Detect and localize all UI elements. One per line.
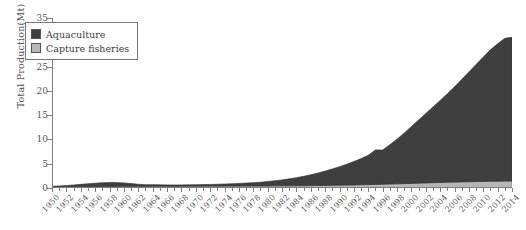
x-axis-tick [340,188,341,192]
x-axis-tick [469,188,470,192]
x-axis-tick [311,188,312,192]
x-axis-tick [117,188,118,191]
x-axis-tick [52,188,53,192]
x-axis-tick [332,188,333,191]
x-axis-tick [217,188,218,191]
x-axis-tick [411,188,412,192]
x-axis-tick [239,188,240,192]
x-axis-tick [81,188,82,192]
x-axis-tick [210,188,211,192]
x-axis-tick [167,188,168,192]
x-axis-tick [390,188,391,191]
x-axis-tick [145,188,146,191]
legend-label-aquaculture: Aquaculture [46,29,105,40]
y-axis-tick-label: 5 [42,159,48,169]
legend-item-capture-fisheries: Capture fisheries [31,41,129,55]
x-axis-tick [296,188,297,192]
x-axis-tick [498,188,499,192]
x-axis-tick [476,188,477,191]
x-axis-tick [160,188,161,191]
x-axis-tick [196,188,197,192]
y-axis-tick-label: 10 [37,134,48,144]
x-axis-tick [383,188,384,192]
x-axis-tick [368,188,369,192]
x-axis-tick [66,188,67,192]
x-axis-tick [102,188,103,191]
x-axis-tick [318,188,319,191]
x-axis-tick [325,188,326,192]
y-axis-tick-label: 20 [37,86,48,96]
y-axis-tick-label: 15 [37,110,48,120]
y-axis-title: Total Production(Mt) [15,0,31,131]
y-axis-tick-label: 25 [37,62,48,72]
x-axis-tick [361,188,362,191]
chart-figure: Total Production(Mt) 05101520253035 1950… [0,0,526,230]
x-axis-tick [59,188,60,191]
x-axis-tick [181,188,182,192]
x-axis-tick [260,188,261,191]
x-axis-tick [282,188,283,192]
x-axis-tick [490,188,491,191]
x-axis-tick [246,188,247,191]
x-axis-tick [426,188,427,192]
x-axis-tick [174,188,175,191]
legend-label-capture-fisheries: Capture fisheries [46,43,129,54]
x-axis-tick [462,188,463,191]
x-axis-tick [455,188,456,192]
x-axis-tick [347,188,348,191]
x-axis-tick [419,188,420,191]
x-axis-tick [275,188,276,191]
x-axis-tick [253,188,254,192]
x-axis-tick [354,188,355,192]
x-axis-tick [95,188,96,192]
x-axis-tick [131,188,132,191]
x-axis-tick [203,188,204,191]
x-axis-tick [404,188,405,191]
y-axis-tick-label: 0 [42,183,48,193]
x-axis-tick [124,188,125,192]
x-axis-tick [110,188,111,192]
x-axis-tick [88,188,89,191]
x-axis-tick [138,188,139,192]
x-axis-tick [505,188,506,191]
x-axis-tick [189,188,190,191]
x-axis-tick [512,188,513,192]
chart-legend: Aquaculture Capture fisheries [25,22,138,60]
x-axis-tick [268,188,269,192]
x-axis-tick [289,188,290,191]
x-axis-tick [433,188,434,191]
x-axis-tick [304,188,305,191]
x-axis-tick [397,188,398,192]
x-axis-tick [225,188,226,192]
x-axis-tick [153,188,154,192]
x-axis-tick [375,188,376,191]
legend-swatch-aquaculture [31,29,41,39]
x-axis-tick [74,188,75,191]
x-axis-tick [440,188,441,192]
legend-item-aquaculture: Aquaculture [31,27,129,41]
x-axis-tick [232,188,233,191]
legend-swatch-capture-fisheries [31,43,41,53]
x-axis-tick [447,188,448,191]
x-axis-tick [483,188,484,192]
